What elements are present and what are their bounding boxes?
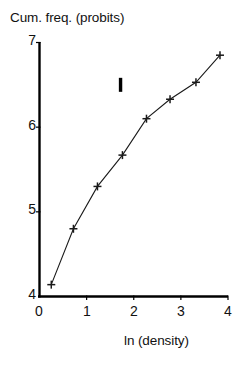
axes-group xyxy=(36,42,228,300)
chart-figure: Cum. freq. (probits) 7 6 5 4 0 1 2 3 4 l… xyxy=(0,0,242,366)
annotation-label-I xyxy=(119,78,122,92)
data-point-1 xyxy=(69,225,77,233)
data-line-series-1 xyxy=(51,55,220,284)
plot-area xyxy=(0,0,242,366)
chart-annotations xyxy=(119,78,122,92)
data-point-markers xyxy=(47,51,224,288)
data-point-0 xyxy=(47,281,55,289)
